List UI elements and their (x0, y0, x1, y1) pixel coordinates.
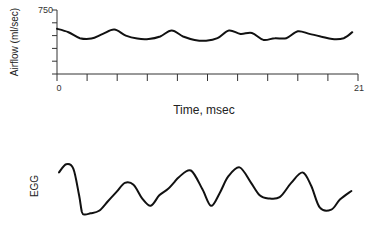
chart-figure: 750 0 21 Time, msec Airflow (ml/sec) EGG (0, 0, 379, 228)
airflow-y-ticks (52, 10, 57, 74)
airflow-series-line (57, 29, 352, 41)
x-tick-label-0: 0 (56, 83, 61, 93)
x-tick-label-21: 21 (354, 83, 364, 93)
airflow-chart: 750 0 21 Time, msec Airflow (ml/sec) (9, 5, 364, 117)
egg-series-line (59, 164, 351, 215)
airflow-x-axis-title: Time, msec (173, 103, 235, 117)
y-tick-label-750: 750 (38, 5, 53, 15)
airflow-y-axis-title: Airflow (ml/sec) (9, 8, 20, 76)
egg-y-axis-title: EGG (29, 175, 40, 197)
egg-chart: EGG (29, 164, 351, 215)
airflow-x-ticks (57, 74, 358, 81)
